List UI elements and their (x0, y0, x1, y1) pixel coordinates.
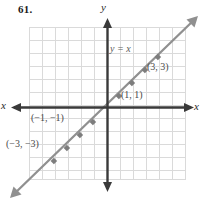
point-label-neg3-neg3: (−3, −3) (6, 138, 39, 149)
equation-label: y = x (110, 43, 131, 54)
point-label-neg1-neg1: (−1, −1) (31, 112, 64, 123)
coordinate-plane-graph (0, 0, 205, 200)
point-label-3-3: (3, 3) (147, 61, 169, 72)
line-point-markers (51, 54, 162, 165)
figure-container: 61. (0, 0, 205, 200)
point-label-1-1: (1, 1) (121, 89, 143, 100)
x-axis (11, 103, 194, 112)
y-axis-label: y (101, 1, 106, 13)
x-axis-label-right: x (194, 100, 199, 112)
x-axis-label-left: x (1, 99, 6, 111)
